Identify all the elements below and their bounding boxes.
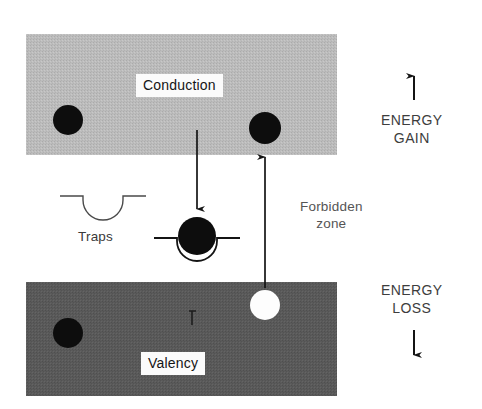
energy-gain-line-2: GAIN [381,129,443,147]
forbidden-zone-line-1: Forbidden [300,198,363,215]
electron-conduction-left-icon [53,105,83,135]
hole-valency-right-icon [250,290,280,320]
empty-trap-well-icon [60,196,146,220]
electron-trapped-icon [178,217,216,255]
forbidden-zone-line-2: zone [300,215,363,232]
energy-gain-line-1: ENERGY [381,111,443,129]
forbidden-zone-label: Forbidden zone [300,198,363,232]
energy-loss-line-2: LOSS [381,299,443,317]
energy-loss-label: ENERGY LOSS [381,281,443,317]
energy-gain-label: ENERGY GAIN [381,111,443,147]
diagram-canvas [0,0,482,409]
electron-valency-left-icon [53,318,83,348]
traps-label: Traps [78,228,113,245]
energy-band-diagram: Conduction Valency Traps Forbidden zone … [0,0,482,409]
valency-band-label: Valency [141,352,205,375]
conduction-band-label: Conduction [136,74,223,97]
energy-loss-line-1: ENERGY [381,281,443,299]
electron-conduction-right-icon [249,112,281,144]
